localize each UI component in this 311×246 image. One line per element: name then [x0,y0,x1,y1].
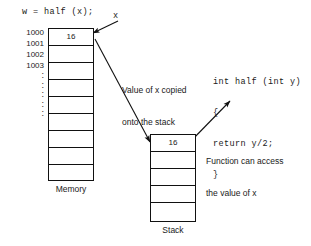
code-line: int half (int y) [213,77,301,88]
memory-address: 1003 [12,60,44,71]
memory-cell-value: 16 [49,32,93,41]
address-ellipsis: : [12,100,44,110]
call-expression: w = half (x); [22,7,94,17]
memory-cell [49,80,93,97]
memory-address: 1002 [12,49,44,60]
code-line: } [213,170,301,181]
memory-cell [49,114,93,131]
memory-address: 1000 [12,27,44,38]
memory-cell: 16 [49,29,93,46]
copy-annotation-line1: Value of x copied [122,85,187,96]
function-code-block: int half (int y) { return y/2; } [213,57,301,201]
copy-annotation-line2: onto the stack [122,117,187,128]
copy-annotation: Value of x copied onto the stack [122,64,187,148]
address-ellipsis: : [12,71,44,81]
memory-address-column: 1000 1001 1002 1003 : : : : : [12,27,44,119]
diagram-canvas: w = half (x); x 1000 1001 1002 1003 : : … [0,0,311,246]
memory-cell [49,63,93,80]
memory-box: 16 [48,28,94,181]
stack-cell [151,203,195,220]
stack-cell [151,152,195,169]
memory-cell [49,131,93,148]
address-ellipsis: : [12,109,44,119]
memory-cell [49,97,93,114]
x-variable-label: x [113,11,119,21]
memory-address: 1001 [12,38,44,49]
memory-cell [49,165,93,182]
code-line: return y/2; [213,139,301,150]
stack-cell [151,186,195,203]
stack-cell [151,169,195,186]
memory-box-label: Memory [48,184,94,195]
memory-cell [49,46,93,63]
stack-box-label: Stack [150,225,196,236]
address-ellipsis: : [12,81,44,91]
address-ellipsis: : [12,90,44,100]
x-pointer-arrow [93,21,118,33]
code-line: { [213,108,301,119]
memory-cell [49,148,93,165]
